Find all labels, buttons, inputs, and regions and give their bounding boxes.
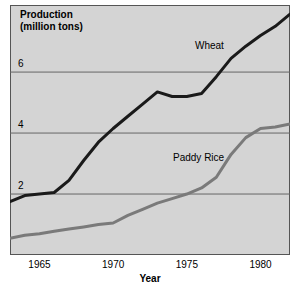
- y-axis-tick-6: 6: [18, 58, 24, 69]
- x-axis-label: Year: [139, 273, 160, 284]
- chart-title-line1: Production: [20, 9, 73, 20]
- series-line-wheat: [10, 14, 290, 202]
- series-line-paddy-rice: [10, 124, 290, 238]
- plot-svg: [10, 5, 290, 255]
- chart-title-line2: (million tons): [20, 21, 83, 32]
- x-axis-tick-1975: 1975: [176, 259, 198, 270]
- x-axis-tick-1980: 1980: [249, 259, 271, 270]
- x-axis-tick-1965: 1965: [28, 259, 50, 270]
- y-axis-tick-2: 2: [18, 180, 24, 191]
- line-chart: Production(million tons) 6 4 2 1965 1970…: [0, 0, 299, 289]
- series-label-wheat: Wheat: [195, 40, 224, 51]
- x-axis-tick-1970: 1970: [102, 259, 124, 270]
- chart-title: Production(million tons): [20, 9, 83, 33]
- y-axis-tick-4: 4: [18, 119, 24, 130]
- series-label-paddy-rice: Paddy Rice: [173, 152, 224, 163]
